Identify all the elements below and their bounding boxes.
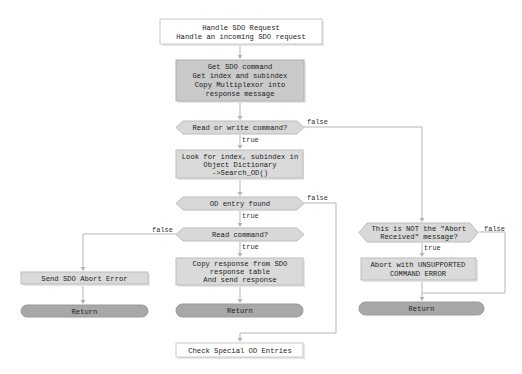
- arrow-icon: [238, 116, 243, 120]
- node-text: This is NOT the "Abort: [372, 225, 467, 233]
- decision-read-command: Read command?: [176, 228, 304, 241]
- arrow-icon: [238, 192, 243, 196]
- node-text: response table: [210, 268, 270, 276]
- decision-read-or-write: Read or write command?: [176, 121, 304, 134]
- edge-dec-rw-false: [304, 127, 422, 221]
- edge-label-true: true: [242, 243, 259, 251]
- node-abort-unsupported-command: Abort with UNSUPPORTED COMMAND ERROR: [361, 258, 478, 282]
- node-text: response message: [205, 90, 274, 98]
- terminal-return-2: Return: [176, 304, 303, 317]
- node-text: Get SDO command: [208, 63, 273, 71]
- arrow-icon: [238, 145, 243, 149]
- arrow-icon: [238, 55, 243, 59]
- node-text: Handle an incoming SDO request: [176, 33, 305, 41]
- edge-label-false: false: [307, 118, 328, 126]
- node-send-sdo-abort-error: Send SDO Abort Error: [21, 272, 150, 286]
- edge-label-true: true: [424, 244, 441, 252]
- node-text: Return: [72, 308, 98, 316]
- edge-label-true: true: [242, 212, 259, 220]
- node-text: Look for index, subindex in: [182, 153, 298, 161]
- arrow-icon: [420, 253, 425, 257]
- decision-not-abort-received: This is NOT the "Abort Received" message…: [359, 223, 478, 242]
- arrow-icon: [81, 267, 86, 271]
- arrow-icon: [238, 299, 243, 303]
- node-text: Check Special OD Entries: [188, 347, 292, 355]
- node-text: Send SDO Abort Error: [41, 275, 127, 283]
- terminal-return-1: Return: [21, 305, 148, 317]
- node-get-sdo-command: Get SDO command Get index and subindex C…: [176, 60, 306, 103]
- node-text: ->Search_OD(): [212, 169, 268, 177]
- node-text: Read command?: [212, 231, 268, 239]
- node-text: Copy Multiplexor into: [195, 81, 286, 89]
- arrow-icon: [238, 253, 243, 257]
- node-text: Copy response from SDO: [193, 260, 288, 268]
- edge-label-false: false: [307, 194, 328, 202]
- arrow-icon: [81, 300, 86, 304]
- edge-dec-read-false: [83, 234, 176, 270]
- node-text: OD entry found: [210, 200, 270, 208]
- edge-label-true: true: [242, 136, 259, 144]
- edge-label-false: false: [484, 225, 505, 233]
- arrow-icon: [238, 338, 243, 342]
- node-text: Handle SDO Request: [202, 24, 280, 32]
- node-text: Abort with UNSUPPORTED: [371, 261, 466, 269]
- arrow-icon: [420, 297, 425, 301]
- arrow-icon: [238, 223, 243, 227]
- node-text: Get index and subindex: [193, 72, 288, 80]
- node-text: Return: [409, 305, 435, 313]
- node-search-od: Look for index, subindex in Object Dicti…: [176, 150, 304, 180]
- edge-label-false: false: [152, 226, 173, 234]
- node-text: Object Dictionary: [203, 161, 277, 169]
- flowchart: Handle SDO Request Handle an incoming SD…: [0, 0, 522, 374]
- arrow-icon: [420, 218, 425, 222]
- node-text: Received" message?: [380, 233, 458, 241]
- node-check-special-od-entries: Check Special OD Entries: [176, 343, 305, 359]
- node-text: Read or write command?: [193, 124, 288, 132]
- decision-od-entry-found: OD entry found: [176, 197, 304, 210]
- node-copy-response: Copy response from SDO response table An…: [176, 258, 305, 287]
- node-handle-sdo-request: Handle SDO Request Handle an incoming SD…: [160, 19, 324, 46]
- terminal-return-3: Return: [359, 302, 484, 315]
- node-text: And send response: [203, 276, 276, 284]
- node-text: Return: [227, 307, 253, 315]
- node-text: COMMAND ERROR: [390, 270, 447, 278]
